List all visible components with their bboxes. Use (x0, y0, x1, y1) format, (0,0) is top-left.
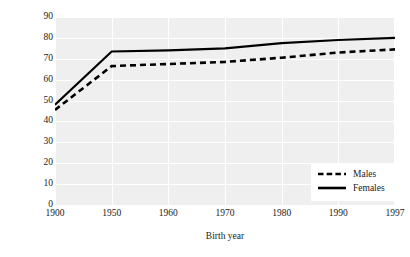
y-tick-label: 40 (27, 116, 53, 126)
y-tick-label: 20 (27, 158, 53, 168)
legend-item-females: Females (317, 181, 394, 195)
y-tick-label: 60 (27, 75, 53, 85)
series-line-males (55, 49, 395, 110)
x-tick-label: 1900 (33, 208, 77, 218)
x-tick-label: 1960 (146, 208, 190, 218)
y-tick-label: 10 (27, 179, 53, 189)
legend-label-females: Females (353, 183, 385, 193)
solid-line-icon (317, 183, 347, 193)
x-tick-label: 1950 (90, 208, 134, 218)
y-tick-label: 80 (27, 33, 53, 43)
y-tick-label: 70 (27, 54, 53, 64)
legend-item-males: Males (317, 167, 394, 181)
y-axis-title: Average longevity (0, 0, 18, 257)
x-tick-label: 1990 (316, 208, 360, 218)
y-tick-label: 30 (27, 137, 53, 147)
y-tick-label: 90 (27, 12, 53, 22)
x-axis-title: Birth year (55, 231, 395, 241)
dashed-line-icon (317, 169, 347, 179)
chart-figure: Average longevity 0102030405060708090 19… (0, 0, 410, 257)
y-tick-label: 50 (27, 96, 53, 106)
legend-label-males: Males (353, 169, 376, 179)
x-tick-label: 1997 (373, 208, 410, 218)
x-tick-label: 1970 (203, 208, 247, 218)
x-tick-label: 1980 (260, 208, 304, 218)
grid-line-horizontal (55, 205, 395, 206)
chart-legend: Males Females (311, 163, 399, 201)
